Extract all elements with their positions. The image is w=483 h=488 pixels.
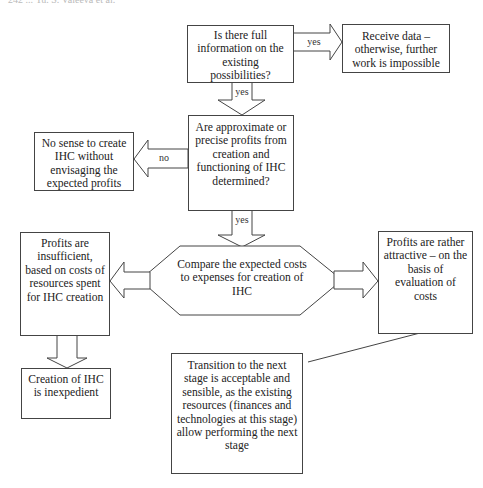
edge-label-no: no [152,152,176,163]
edge-label-yes-down-1: yes [230,86,254,97]
arrow-left-insufficient [110,262,150,298]
node-text: Transition to the next stage is acceptab… [177,359,298,452]
node-profits-insufficient: Profits are insufficient, based on costs… [20,232,110,336]
node-no-sense: No sense to create IHC without envisagin… [34,132,134,191]
node-creation-inexpedient: Creation of IHC is inexpedient [21,368,111,419]
node-profits-determined-question: Are approximate or precise profits from … [188,115,294,211]
arrow-right-attractive [334,262,378,298]
node-profits-attractive: Profits are rather attractive – on the b… [378,231,473,334]
node-text: No sense to create IHC without envisagin… [42,137,127,190]
node-compare-costs: Compare the expected costs to expenses f… [172,258,312,298]
edge-label-yes-right: yes [302,36,326,47]
arrow-down-inexpedient [47,335,87,368]
node-receive-data: Receive data – otherwise, further work i… [342,24,450,73]
node-text: Receive data – otherwise, further work i… [352,30,440,70]
node-text: Are approximate or precise profits from … [195,121,286,188]
page-header: 242 ... Yu. S. Valeeva et al. [8,0,115,5]
edge-label-yes-down-2: yes [230,214,254,225]
node-transition-next-stage: Transition to the next stage is acceptab… [171,353,303,474]
node-text: Compare the expected costs to expenses f… [177,258,307,298]
node-text: Profits are insufficient, based on costs… [25,237,105,304]
node-text: Is there full information on the existin… [197,29,283,82]
node-text: Creation of IHC is inexpedient [28,373,103,399]
callout-line [308,333,420,362]
node-full-information-question: Is there full information on the existin… [187,25,294,83]
node-text: Profits are rather attractive – on the b… [384,236,467,303]
